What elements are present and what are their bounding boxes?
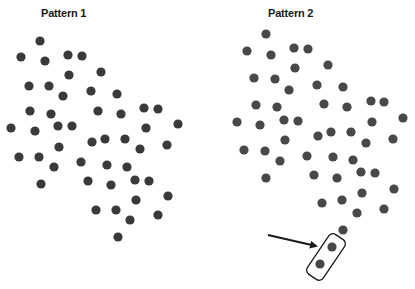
dot (40, 56, 49, 65)
dot (255, 120, 264, 129)
dot (261, 29, 270, 38)
dot (319, 99, 328, 108)
dot (367, 117, 376, 126)
dot (346, 127, 355, 136)
dot (16, 52, 25, 61)
dot (135, 144, 144, 153)
dot (130, 175, 139, 184)
dot (332, 173, 341, 182)
dot (100, 134, 109, 143)
dot (342, 102, 351, 111)
dot (239, 145, 248, 154)
dot (153, 104, 162, 113)
dot (44, 81, 53, 90)
dot (120, 134, 129, 143)
dot (352, 208, 361, 217)
dot (162, 140, 171, 149)
dot (289, 43, 298, 52)
dot (279, 115, 288, 124)
dot (86, 86, 95, 95)
dot (284, 85, 293, 94)
dot (67, 121, 76, 130)
dot (261, 173, 270, 182)
dot (64, 70, 73, 79)
dot (24, 81, 33, 90)
dot (379, 204, 388, 213)
dot (251, 100, 260, 109)
dot (398, 113, 407, 122)
dot (309, 170, 318, 179)
dot (83, 176, 92, 185)
dot (58, 91, 67, 100)
dot (293, 116, 302, 125)
dot (102, 160, 111, 169)
dot (232, 117, 241, 126)
dot (25, 106, 34, 115)
dot (260, 146, 269, 155)
dot (63, 50, 72, 59)
dot-patterns-canvas (0, 0, 415, 289)
dot (153, 210, 162, 219)
dot (35, 36, 44, 45)
dot (242, 46, 251, 55)
dot (131, 195, 140, 204)
dot (141, 123, 150, 132)
dot (312, 80, 321, 89)
dot (113, 232, 122, 241)
dot (302, 151, 311, 160)
dot (122, 162, 131, 171)
dot (366, 96, 375, 105)
dot (87, 137, 96, 146)
dot (338, 225, 347, 234)
dot (370, 168, 379, 177)
dot (326, 127, 335, 136)
dot (163, 191, 172, 200)
dot (272, 102, 281, 111)
dot (388, 134, 397, 143)
highlight-box (305, 232, 348, 282)
dot (328, 152, 337, 161)
dot (36, 179, 45, 188)
dot (357, 188, 366, 197)
dot (6, 123, 15, 132)
dot (76, 157, 85, 166)
dot (53, 121, 62, 130)
dot (338, 82, 347, 91)
dot (270, 74, 279, 83)
dot (54, 142, 63, 151)
pattern-2-dots (232, 29, 407, 268)
dot (317, 198, 326, 207)
dot (356, 167, 365, 176)
dot (30, 126, 39, 135)
dot (315, 259, 324, 268)
dot (379, 97, 388, 106)
dot (323, 60, 332, 69)
dot (275, 156, 284, 165)
dot (34, 152, 43, 161)
dot (112, 89, 121, 98)
dot (106, 180, 115, 189)
dot (337, 195, 346, 204)
dot (327, 242, 336, 251)
dot (93, 106, 102, 115)
dot (46, 109, 55, 118)
dot (14, 152, 23, 161)
dot (303, 44, 312, 53)
dot (361, 138, 370, 147)
annotation-arrow-icon (268, 235, 316, 246)
dot (116, 109, 125, 118)
dot (125, 215, 134, 224)
dot (91, 205, 100, 214)
dot (348, 155, 357, 164)
dot (77, 51, 86, 60)
dot (49, 162, 58, 171)
dot (139, 103, 148, 112)
dot (111, 205, 120, 214)
dot (96, 67, 105, 76)
dot (266, 50, 275, 59)
dot (280, 135, 289, 144)
dot (249, 73, 258, 82)
dot (389, 184, 398, 193)
pattern-1-dots (6, 36, 182, 241)
dot (173, 119, 182, 128)
